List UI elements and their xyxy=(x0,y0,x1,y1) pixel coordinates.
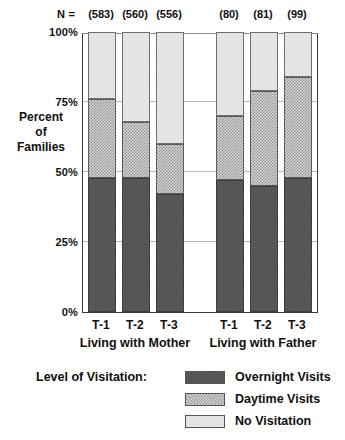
y-axis-label: Percent of Families xyxy=(8,110,74,155)
bar-segment[interactable] xyxy=(284,77,312,178)
legend-title: Level of Visitation: xyxy=(36,370,147,384)
bar-segment[interactable] xyxy=(216,32,244,116)
bar-segment[interactable] xyxy=(284,32,312,77)
n-value: (99) xyxy=(275,8,319,20)
stacked-bar[interactable] xyxy=(122,34,150,312)
n-value: (556) xyxy=(147,8,191,20)
legend-item-label: Overnight Visits xyxy=(235,370,331,384)
y-axis-label-line-1: Percent xyxy=(8,110,74,125)
bar-segment[interactable] xyxy=(88,178,116,312)
legend-item-label: Daytime Visits xyxy=(235,392,320,406)
bar-segment[interactable] xyxy=(216,180,244,312)
stacked-bar[interactable] xyxy=(216,34,244,312)
x-axis-tick: T-3 xyxy=(149,318,189,332)
bar-segment[interactable] xyxy=(250,186,278,312)
plot-area xyxy=(82,33,318,313)
bar-segment[interactable] xyxy=(250,91,278,186)
legend-swatch-none xyxy=(185,415,225,428)
y-axis-label-line-3: Families xyxy=(8,140,74,155)
bar-segment[interactable] xyxy=(122,178,150,312)
bar-segment[interactable] xyxy=(216,116,244,180)
bar-segment[interactable] xyxy=(250,32,278,91)
n-values-row: N = (583)(560)(556)(80)(81)(99) xyxy=(0,8,345,26)
bar-segment[interactable] xyxy=(122,122,150,178)
n-label: N = xyxy=(57,8,75,20)
legend-item[interactable]: Overnight Visits xyxy=(185,366,331,388)
bar-segment[interactable] xyxy=(156,144,184,194)
x-axis-group-label: Living with Father xyxy=(198,336,328,350)
x-axis-group-label: Living with Mother xyxy=(70,336,200,350)
y-axis-tick-100%: 100% xyxy=(49,26,78,38)
stacked-bar[interactable] xyxy=(88,34,116,312)
y-axis-tick-50%: 50% xyxy=(55,166,78,178)
bar-segment[interactable] xyxy=(156,32,184,144)
stacked-bar[interactable] xyxy=(156,34,184,312)
legend-item[interactable]: Daytime Visits xyxy=(185,388,331,410)
stacked-bar[interactable] xyxy=(250,34,278,312)
bar-segment[interactable] xyxy=(88,99,116,177)
legend-item-label: No Visitation xyxy=(235,414,311,428)
stacked-bar[interactable] xyxy=(284,34,312,312)
legend-swatch-overnight xyxy=(185,371,225,384)
gridline-25 xyxy=(83,241,317,242)
bar-segment[interactable] xyxy=(156,194,184,312)
y-axis-tick-0%: 0% xyxy=(62,306,78,318)
bar-segment[interactable] xyxy=(284,178,312,312)
legend: Overnight VisitsDaytime VisitsNo Visitat… xyxy=(185,366,331,432)
gridline-75 xyxy=(83,101,317,102)
y-axis-tick-75%: 75% xyxy=(55,96,78,108)
legend-item[interactable]: No Visitation xyxy=(185,410,331,432)
gridline-50 xyxy=(83,171,317,172)
y-axis-label-line-2: of xyxy=(8,125,74,140)
y-axis-tick-25%: 25% xyxy=(55,236,78,248)
legend-swatch-daytime xyxy=(185,393,225,406)
bar-segment[interactable] xyxy=(88,32,116,99)
x-axis-tick: T-3 xyxy=(277,318,317,332)
bar-segment[interactable] xyxy=(122,32,150,122)
